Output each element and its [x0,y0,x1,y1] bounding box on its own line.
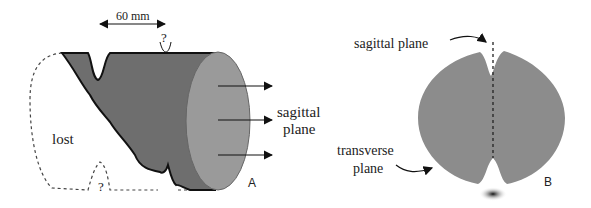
panel-a: 60 mm ? ? lost sagittal plane A [30,9,320,194]
transverse-plane-label-line1: transverse [337,143,394,158]
panel-b: sagittal plane transverse plane B [337,36,565,201]
curved-arrow-icon [450,36,486,42]
question-mark-bottom: ? [98,179,104,194]
cross-section-disc [418,51,565,184]
curved-arrow-icon [396,165,432,172]
sagittal-plane-label: sagittal plane [354,36,428,51]
dimension-label: 60 mm [116,9,150,23]
sagittal-plane-label-line1: sagittal [277,104,320,120]
sagittal-plane-label-line2: plane [283,121,316,137]
sagittal-cut-face [186,52,250,190]
lost-label: lost [52,131,75,147]
shadow-blot [479,187,507,201]
panel-letter-a: A [248,176,256,190]
figure-canvas: 60 mm ? ? lost sagittal plane A sagittal… [0,0,591,208]
question-mark-top: ? [161,30,167,45]
panel-letter-b: B [544,175,552,189]
transverse-plane-label-line2: plane [353,161,383,176]
